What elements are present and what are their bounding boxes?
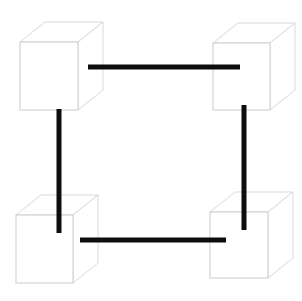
figure-canvas — [0, 0, 302, 301]
cube-bar-diagram — [0, 0, 302, 301]
bottom-right-cube-front-face — [210, 212, 268, 278]
top-left-cube-front-face — [20, 42, 78, 110]
bottom-right-cube — [210, 192, 293, 278]
top-right-cube-front-face — [213, 43, 270, 110]
bottom-left-cube-front-face — [16, 215, 73, 283]
